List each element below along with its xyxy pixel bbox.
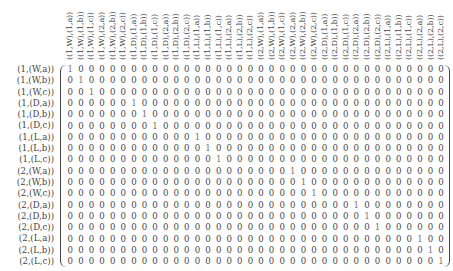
matrix-cell: 0 bbox=[266, 211, 277, 222]
matrix-cell: 0 bbox=[309, 222, 320, 233]
matrix-cell: 0 bbox=[362, 143, 373, 154]
matrix-cell: 0 bbox=[340, 166, 351, 177]
column-header: ((2,L),(1,a)) bbox=[383, 0, 394, 62]
matrix-cell: 0 bbox=[425, 121, 436, 132]
matrix-cell: 0 bbox=[277, 256, 288, 267]
matrix-row: 000000000000001000000000000000000000 bbox=[65, 154, 446, 165]
matrix-cell: 0 bbox=[203, 75, 214, 86]
matrix-cell: 0 bbox=[277, 87, 288, 98]
matrix-cell: 0 bbox=[319, 211, 330, 222]
matrix-cell: 0 bbox=[160, 109, 171, 120]
matrix-cell: 0 bbox=[340, 143, 351, 154]
matrix-cell: 0 bbox=[266, 75, 277, 86]
matrix-cell: 0 bbox=[171, 87, 182, 98]
matrix-cell: 0 bbox=[65, 188, 76, 199]
matrix-cell: 0 bbox=[224, 234, 235, 245]
matrix-cell: 0 bbox=[287, 154, 298, 165]
matrix-cell: 0 bbox=[298, 132, 309, 143]
matrix-cell: 0 bbox=[415, 143, 426, 154]
column-header: ((1,W),(1,a)) bbox=[65, 0, 76, 62]
matrix-cell: 0 bbox=[97, 211, 108, 222]
matrix-cell: 0 bbox=[256, 200, 267, 211]
matrix-cell: 0 bbox=[415, 200, 426, 211]
matrix-cell: 0 bbox=[309, 109, 320, 120]
matrix-cell: 0 bbox=[65, 132, 76, 143]
matrix-cell: 0 bbox=[107, 98, 118, 109]
matrix-cell: 0 bbox=[425, 234, 436, 245]
matrix-cell: 0 bbox=[256, 98, 267, 109]
matrix-cell: 0 bbox=[129, 211, 140, 222]
matrix-cell: 0 bbox=[86, 222, 97, 233]
matrix-cell: 0 bbox=[86, 109, 97, 120]
matrix-cell: 0 bbox=[425, 98, 436, 109]
matrix-cell: 0 bbox=[415, 245, 426, 256]
matrix-cell: 0 bbox=[309, 98, 320, 109]
matrix-cell: 1 bbox=[309, 188, 320, 199]
matrix-cell: 0 bbox=[266, 132, 277, 143]
matrix-cell: 0 bbox=[224, 87, 235, 98]
matrix-cell: 0 bbox=[309, 256, 320, 267]
matrix-cell: 0 bbox=[309, 200, 320, 211]
matrix-cell: 0 bbox=[213, 87, 224, 98]
matrix-cell: 0 bbox=[362, 121, 373, 132]
matrix-cell: 0 bbox=[118, 154, 129, 165]
matrix-cell: 0 bbox=[436, 121, 447, 132]
matrix-cell: 0 bbox=[330, 75, 341, 86]
matrix-cell: 0 bbox=[139, 166, 150, 177]
matrix-cell: 0 bbox=[107, 132, 118, 143]
matrix-cell: 0 bbox=[319, 109, 330, 120]
matrix-cell: 0 bbox=[277, 75, 288, 86]
matrix-cell: 0 bbox=[319, 188, 330, 199]
matrix-cell: 0 bbox=[436, 222, 447, 233]
matrix-cell: 0 bbox=[256, 64, 267, 75]
matrix-cell: 0 bbox=[182, 256, 193, 267]
matrix-cell: 0 bbox=[372, 87, 383, 98]
matrix-cell: 0 bbox=[203, 87, 214, 98]
matrix-cell: 0 bbox=[436, 166, 447, 177]
matrix-cell: 0 bbox=[86, 121, 97, 132]
matrix-cell: 0 bbox=[245, 245, 256, 256]
matrix-cell: 0 bbox=[118, 256, 129, 267]
matrix-cell: 0 bbox=[118, 75, 129, 86]
matrix-cell: 0 bbox=[383, 64, 394, 75]
matrix-cell: 0 bbox=[266, 109, 277, 120]
matrix-cell: 0 bbox=[383, 109, 394, 120]
row-label: (1,(W,b)) bbox=[0, 75, 58, 86]
matrix-cell: 0 bbox=[277, 64, 288, 75]
matrix-cell: 0 bbox=[213, 75, 224, 86]
matrix-cell: 0 bbox=[160, 98, 171, 109]
matrix-cell: 0 bbox=[160, 166, 171, 177]
column-header-label: ((2,L),(2,b)) bbox=[425, 15, 435, 60]
matrix-cell: 1 bbox=[415, 234, 426, 245]
matrix-cell: 0 bbox=[160, 211, 171, 222]
matrix-cell: 0 bbox=[245, 166, 256, 177]
matrix-cell: 0 bbox=[171, 143, 182, 154]
matrix-cell: 0 bbox=[351, 188, 362, 199]
matrix-cell: 0 bbox=[171, 177, 182, 188]
matrix-cell: 0 bbox=[298, 200, 309, 211]
matrix-cell: 0 bbox=[86, 211, 97, 222]
matrix-cell: 0 bbox=[256, 154, 267, 165]
matrix-cell: 0 bbox=[340, 154, 351, 165]
matrix-cell: 0 bbox=[319, 222, 330, 233]
matrix-cell: 0 bbox=[404, 222, 415, 233]
matrix-cell: 0 bbox=[224, 245, 235, 256]
matrix-cell: 0 bbox=[404, 245, 415, 256]
matrix-cell: 0 bbox=[97, 121, 108, 132]
matrix-cell: 0 bbox=[393, 166, 404, 177]
matrix-cell: 0 bbox=[277, 234, 288, 245]
column-header: ((2,W),(1,a)) bbox=[256, 0, 267, 62]
matrix-cell: 0 bbox=[213, 109, 224, 120]
matrix-cell: 0 bbox=[235, 234, 246, 245]
matrix-cell: 0 bbox=[203, 256, 214, 267]
column-header: ((1,W),(2,a)) bbox=[97, 0, 108, 62]
matrix-cell: 0 bbox=[415, 188, 426, 199]
matrix-cell: 0 bbox=[256, 87, 267, 98]
matrix-cell: 0 bbox=[393, 211, 404, 222]
matrix-cell: 0 bbox=[340, 211, 351, 222]
matrix-cell: 0 bbox=[425, 143, 436, 154]
matrix-cell: 0 bbox=[213, 98, 224, 109]
row-label: (2,(D,a)) bbox=[0, 200, 58, 211]
matrix-cell: 0 bbox=[266, 256, 277, 267]
matrix-cell: 0 bbox=[171, 166, 182, 177]
